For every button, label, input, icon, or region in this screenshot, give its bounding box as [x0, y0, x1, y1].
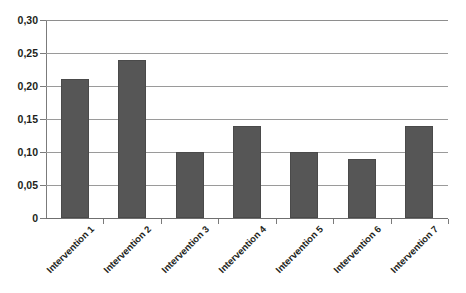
y-axis-tick-label: 0 [0, 213, 38, 224]
gridline [46, 86, 448, 87]
bar [176, 152, 204, 218]
y-axis-tick-label: 0,05 [0, 180, 38, 191]
y-axis-tick-label: 0,25 [0, 48, 38, 59]
bar [61, 79, 89, 218]
bar [348, 159, 376, 218]
y-axis-tick-label: 0,10 [0, 147, 38, 158]
x-axis-category-label: Intervention 5 [274, 224, 325, 275]
x-axis-category-label: Intervention 3 [160, 224, 211, 275]
x-axis-tick-mark [103, 219, 104, 224]
x-axis-tick-mark [333, 219, 334, 224]
x-axis-tick-mark [391, 219, 392, 224]
x-axis-tick-mark [161, 219, 162, 224]
y-axis-tick-label: 0,15 [0, 114, 38, 125]
x-axis-category-label: Intervention 7 [389, 224, 440, 275]
x-axis-category-label: Intervention 2 [102, 224, 153, 275]
gridline [46, 53, 448, 54]
plot-area [46, 20, 448, 218]
x-axis-tick-mark [276, 219, 277, 224]
x-axis-tick-mark [448, 219, 449, 224]
y-axis-tick-label: 0,20 [0, 81, 38, 92]
bar-chart: 00,050,100,150,200,250,30 Intervention 1… [0, 0, 466, 293]
bar [290, 152, 318, 218]
bar [118, 60, 146, 218]
y-axis-tick-label: 0,30 [0, 15, 38, 26]
x-axis-category-label: Intervention 4 [217, 224, 268, 275]
gridline [46, 20, 448, 21]
gridline [46, 119, 448, 120]
bar [405, 126, 433, 218]
x-axis-category-label: Intervention 1 [45, 224, 96, 275]
bar [233, 126, 261, 218]
x-axis-tick-mark [218, 219, 219, 224]
x-axis-category-label: Intervention 6 [332, 224, 383, 275]
gridline [46, 218, 448, 219]
